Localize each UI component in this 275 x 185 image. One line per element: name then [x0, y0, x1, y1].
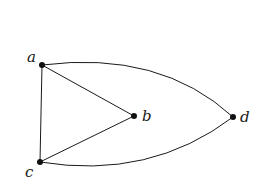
vertex-label-a: a	[27, 48, 36, 66]
vertex-c	[37, 159, 43, 165]
edge-a-c	[40, 65, 42, 162]
edge-a-d	[42, 62, 233, 117]
edge-b-c	[40, 116, 134, 162]
vertex-a	[39, 62, 45, 68]
vertex-d	[230, 114, 236, 120]
edge-c-d	[40, 117, 233, 166]
vertex-label-c: c	[25, 163, 34, 181]
graph-diagram: a b c d	[0, 0, 275, 185]
vertex-label-b: b	[142, 107, 152, 125]
vertex-label-d: d	[240, 108, 250, 126]
edge-a-b	[42, 65, 134, 116]
vertex-b	[131, 113, 137, 119]
